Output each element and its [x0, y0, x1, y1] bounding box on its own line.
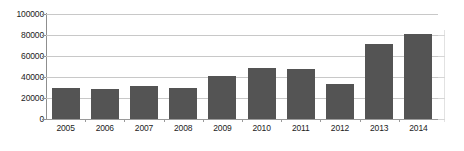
- x-tick-mark: [360, 119, 361, 122]
- bar-slot: [203, 14, 242, 119]
- x-tick-label-2013: 2013: [360, 123, 399, 134]
- x-tick-label-2011: 2011: [281, 123, 320, 134]
- x-tick-label-2009: 2009: [203, 123, 242, 134]
- bar-chart-figure: 020000400006000080000100000 200520062007…: [0, 0, 464, 151]
- bar-slot: [164, 14, 203, 119]
- x-tick-mark: [281, 119, 282, 122]
- x-tick-label-2006: 2006: [85, 123, 124, 134]
- y-tick-label: 0: [2, 115, 44, 124]
- bar-slot: [281, 14, 320, 119]
- bar-slot: [399, 14, 438, 119]
- x-axis: 2005200620072008200920102011201220132014: [46, 123, 438, 139]
- right-axis-line: [444, 30, 445, 122]
- y-axis: 020000400006000080000100000: [0, 0, 44, 151]
- bar-2007[interactable]: [130, 86, 158, 119]
- bar-2010[interactable]: [248, 68, 276, 119]
- bar-2014[interactable]: [404, 34, 432, 119]
- bar-2012[interactable]: [326, 84, 354, 119]
- bar-2011[interactable]: [287, 69, 315, 119]
- x-tick-label-2012: 2012: [320, 123, 359, 134]
- x-tick-label-2010: 2010: [242, 123, 281, 134]
- bar-slot: [320, 14, 359, 119]
- right-axis-tick: [438, 119, 445, 120]
- y-tick-label: 100000: [2, 10, 44, 19]
- bar-slot: [242, 14, 281, 119]
- plot-area: [46, 14, 438, 119]
- x-tick-mark: [203, 119, 204, 122]
- right-axis-tick: [438, 35, 445, 36]
- x-tick-label-2014: 2014: [399, 123, 438, 134]
- bar-2006[interactable]: [91, 89, 119, 119]
- x-tick-mark: [85, 119, 86, 122]
- x-tick-mark: [242, 119, 243, 122]
- bar-2008[interactable]: [169, 88, 197, 119]
- right-axis-tick: [438, 56, 445, 57]
- y-tick-label: 40000: [2, 73, 44, 82]
- bar-2009[interactable]: [208, 76, 236, 119]
- bar-2013[interactable]: [365, 44, 393, 119]
- x-tick-label-2008: 2008: [164, 123, 203, 134]
- bar-slot: [85, 14, 124, 119]
- x-tick-mark: [399, 119, 400, 122]
- y-tick-label: 80000: [2, 31, 44, 40]
- x-tick-mark: [320, 119, 321, 122]
- bar-2005[interactable]: [52, 88, 80, 119]
- right-axis-tick: [438, 77, 445, 78]
- right-axis-tick: [438, 98, 445, 99]
- bar-slot: [124, 14, 163, 119]
- x-tick-mark: [164, 119, 165, 122]
- y-tick-label: 20000: [2, 94, 44, 103]
- x-tick-label-2007: 2007: [124, 123, 163, 134]
- y-tick-label: 60000: [2, 52, 44, 61]
- bar-slot: [360, 14, 399, 119]
- bar-slot: [46, 14, 85, 119]
- x-tick-label-2005: 2005: [46, 123, 85, 134]
- x-tick-mark: [124, 119, 125, 122]
